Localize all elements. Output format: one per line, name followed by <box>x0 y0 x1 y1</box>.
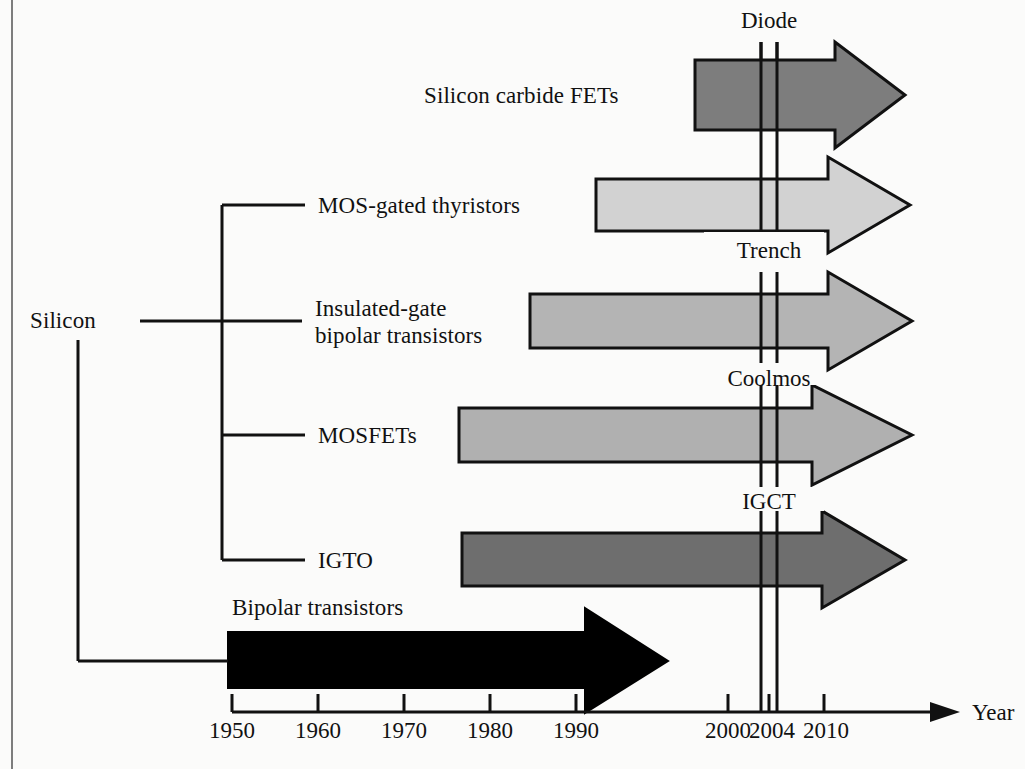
axis-arrowhead <box>930 702 960 722</box>
milestone-label-coolmos: Coolmos <box>704 366 834 392</box>
axis-tick-label-1960: 1960 <box>278 718 358 744</box>
arrow-mosfets <box>459 385 912 485</box>
axis-title-year: Year <box>972 700 1014 726</box>
arrow-insulated-gate-bipolar-transistors <box>530 272 912 370</box>
milestone-label-trench: Trench <box>709 238 829 264</box>
arrow-silicon-carbide-fets <box>695 42 905 148</box>
arrow-igto <box>462 511 905 608</box>
axis-tick-label-1990: 1990 <box>536 718 616 744</box>
milestone-label-igct: IGCT <box>709 489 829 515</box>
axis-tick-label-2010: 2010 <box>786 718 866 744</box>
tech-label-igbt-line1: Insulated-gate <box>315 295 447 322</box>
tech-label-mosfets: MOSFETs <box>318 422 417 449</box>
axis-tick-label-1950: 1950 <box>192 718 272 744</box>
axis-tick-label-1970: 1970 <box>364 718 444 744</box>
tech-label-mos-gated-thyristors: MOS-gated thyristors <box>318 192 520 219</box>
tech-label-silicon-carbide-fets: Silicon carbide FETs <box>424 82 619 109</box>
tree-root-label-silicon: Silicon <box>30 307 140 334</box>
milestone-label-diode: Diode <box>709 8 829 34</box>
timeline-graphics <box>0 0 1025 769</box>
tech-label-bipolar-transistors: Bipolar transistors <box>232 594 403 621</box>
axis-tick-label-1980: 1980 <box>450 718 530 744</box>
tech-label-igbt-line2: bipolar transistors <box>315 322 482 349</box>
arrow-bipolar-transistors <box>228 608 668 713</box>
diagram-canvas: Silicon Silicon carbide FETs MOS-gated t… <box>0 0 1025 769</box>
tech-label-igto: IGTO <box>318 547 373 574</box>
